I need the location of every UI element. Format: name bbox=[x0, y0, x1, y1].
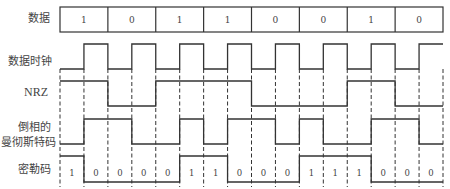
label-data-clock: 数据时钟 bbox=[8, 55, 60, 68]
data-bit-value: 0 bbox=[416, 15, 422, 25]
data-bit-value: 0 bbox=[273, 15, 279, 25]
miller-bit-label: 0 bbox=[237, 168, 242, 178]
miller-bit-label: 0 bbox=[93, 168, 98, 178]
miller-bit-label: 0 bbox=[285, 168, 290, 178]
miller-bit-label: 1 bbox=[189, 168, 194, 178]
miller-bit-label: 1 bbox=[357, 168, 362, 178]
data-bit-value: 1 bbox=[368, 15, 374, 25]
data-bit-value: 0 bbox=[129, 15, 135, 25]
miller-bit-label: 0 bbox=[141, 168, 146, 178]
label-miller: 密勒码 bbox=[18, 163, 58, 176]
data-bit-value: 1 bbox=[225, 15, 231, 25]
label-manchester-line1: 倒相的 bbox=[18, 121, 58, 134]
clock-waveform bbox=[60, 44, 443, 69]
miller-bit-label: 0 bbox=[165, 168, 170, 178]
miller-bit-label: 0 bbox=[380, 168, 385, 178]
data-bit-value: 1 bbox=[177, 15, 183, 25]
miller-bit-label: 0 bbox=[428, 168, 433, 178]
miller-bit-label: 1 bbox=[213, 168, 218, 178]
label-manchester-line2: 曼彻斯特码 bbox=[1, 136, 61, 149]
miller-bit-label: 1 bbox=[309, 168, 314, 178]
coding-waveform-diagram: 10110010 1000011000111000 bbox=[0, 0, 450, 189]
data-bits-row: 10110010 bbox=[60, 7, 443, 32]
miller-bit-label: 1 bbox=[333, 168, 338, 178]
clock-trace bbox=[60, 44, 443, 69]
data-bit-value: 0 bbox=[320, 15, 326, 25]
miller-bit-label: 0 bbox=[404, 168, 409, 178]
label-nrz: NRZ bbox=[24, 86, 54, 99]
nrz-waveform bbox=[60, 81, 443, 106]
nrz-trace bbox=[60, 81, 443, 106]
label-data: 数据 bbox=[22, 12, 50, 25]
data-bit-value: 1 bbox=[81, 15, 87, 25]
miller-bit-label: 0 bbox=[117, 168, 122, 178]
miller-bit-label: 0 bbox=[261, 168, 266, 178]
miller-bit-label: 1 bbox=[69, 168, 74, 178]
